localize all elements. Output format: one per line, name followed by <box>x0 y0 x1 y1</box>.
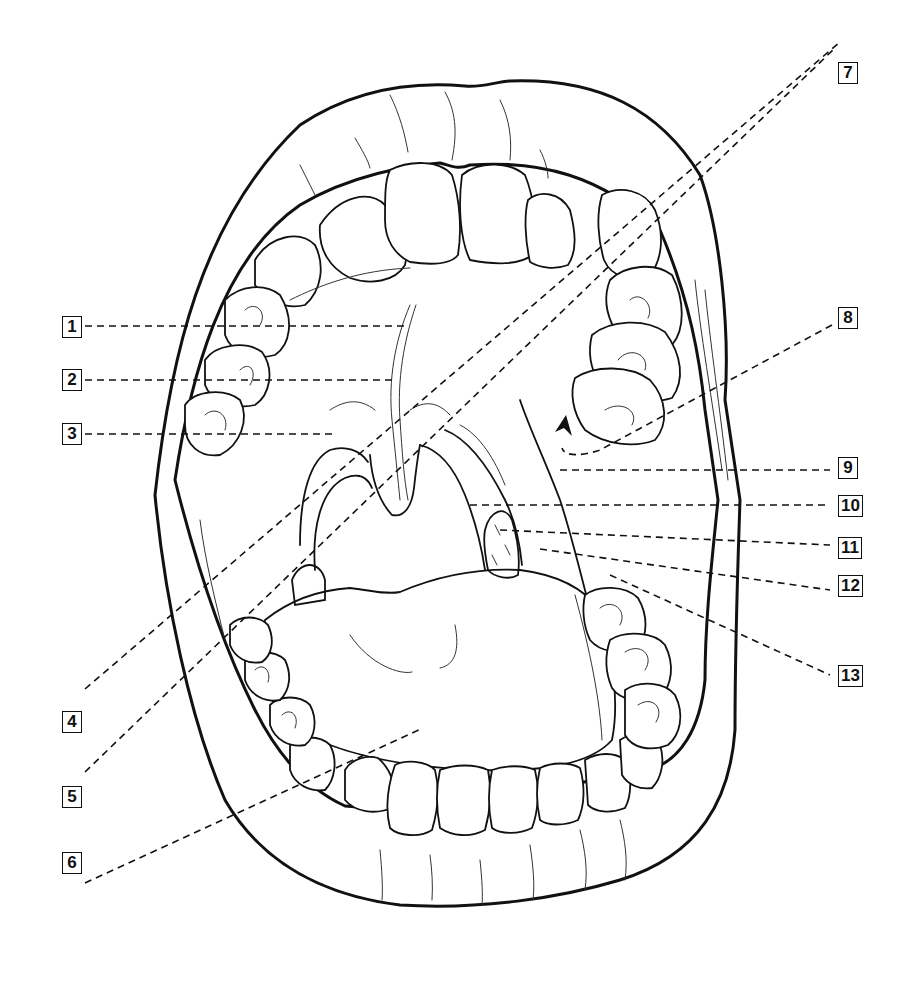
tongue-surface-line <box>350 635 412 673</box>
callout-label-7: 7 <box>838 62 858 84</box>
callout-label-3: 3 <box>62 423 82 445</box>
callout-label-13: 13 <box>838 665 863 687</box>
mouth-illustration <box>0 0 913 983</box>
callout-label-5: 5 <box>62 786 82 808</box>
callout-label-11: 11 <box>838 537 862 559</box>
callout-label-4: 4 <box>62 711 82 733</box>
callout-label-1: 1 <box>62 316 82 338</box>
palate-and-uvula <box>290 268 450 515</box>
arrow-marker-icon <box>555 415 572 436</box>
callout-label-2: 2 <box>62 369 82 391</box>
callout-label-8: 8 <box>838 307 858 329</box>
callout-label-12: 12 <box>838 575 863 597</box>
callout-label-6: 6 <box>62 852 82 874</box>
callout-label-10: 10 <box>838 495 863 517</box>
mouth-anatomy-diagram: 1 2 3 4 5 6 7 8 9 10 11 12 13 <box>0 0 913 983</box>
tongue-midline <box>440 625 457 668</box>
callout-label-9: 9 <box>838 457 858 479</box>
